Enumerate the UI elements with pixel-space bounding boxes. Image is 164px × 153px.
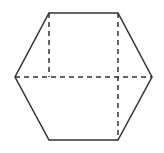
hexagon-diagram xyxy=(0,0,164,153)
hexagon-figure xyxy=(0,0,164,153)
